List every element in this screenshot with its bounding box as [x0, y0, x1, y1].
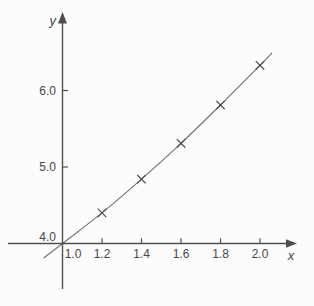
x-tick-labels: 1.01.21.41.61.82.0 [65, 247, 269, 261]
y-tick-label: 4.0 [39, 230, 56, 244]
x-tick-label: 1.0 [65, 247, 82, 261]
x-tick-label: 1.6 [173, 247, 190, 261]
y-tick-label: 6.0 [39, 84, 56, 98]
x-tick-label: 1.2 [94, 247, 111, 261]
graph-canvas: y 4.05.06.0 x 1.01.21.41.61.82.0 [0, 0, 314, 306]
x-tick-label: 1.8 [212, 247, 229, 261]
x-marker-icon [137, 175, 145, 183]
graph-figure: y 4.05.06.0 x 1.01.21.41.61.82.0 [0, 0, 314, 306]
y-axis-label: y [49, 13, 58, 28]
x-axis-arrow-icon [286, 239, 297, 248]
x-ticks [102, 238, 260, 243]
y-ticks [63, 91, 69, 168]
x-marker-icon [98, 209, 106, 217]
y-tick-labels: 4.05.06.0 [39, 84, 56, 244]
x-marker-icon [216, 101, 224, 109]
data-point-markers [98, 61, 264, 217]
solution-curve [44, 53, 272, 258]
x-tick-label: 1.4 [133, 247, 150, 261]
y-tick-label: 5.0 [39, 160, 56, 174]
x-axis-label: x [287, 248, 295, 263]
y-axis-arrow-icon [58, 12, 67, 24]
x-marker-icon [256, 61, 264, 69]
x-tick-label: 2.0 [252, 247, 269, 261]
x-marker-icon [177, 139, 185, 147]
